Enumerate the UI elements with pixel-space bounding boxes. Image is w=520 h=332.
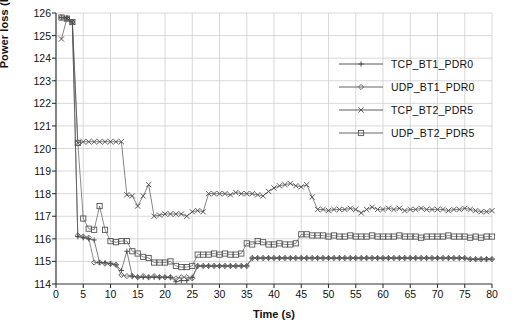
legend-label: UDP_BT2_PDR5: [391, 127, 475, 139]
x-tick-label: 15: [132, 289, 144, 300]
legend-label: UDP_BT1_PDR0: [391, 81, 475, 93]
x-tick-label: 55: [350, 289, 362, 300]
y-tick-label: 117: [23, 211, 51, 221]
legend-item-UDP_BT1_PDR0[interactable]: UDP_BT1_PDR0: [338, 75, 475, 98]
y-tick-label: 118: [23, 189, 51, 199]
legend-swatch-diamond-icon: [338, 81, 384, 93]
legend-swatch-cross-icon: [338, 104, 384, 116]
y-tick-label: 121: [23, 121, 51, 131]
x-tick-label: 45: [295, 289, 307, 300]
legend-swatch-plus-icon: [338, 58, 384, 70]
y-tick-label: 126: [23, 8, 51, 18]
power-loss-chart-figure: Power loss (kw) Time (s) 114115116117118…: [0, 0, 520, 332]
y-tick-label: 119: [23, 166, 51, 176]
legend-swatch-square-icon: [338, 127, 384, 139]
x-axis-title: Time (s): [56, 308, 492, 320]
y-axis-title: Power loss (kw): [0, 0, 10, 96]
y-tick-label: 123: [23, 76, 51, 86]
x-tick-label: 70: [432, 289, 444, 300]
x-tick-label: 65: [404, 289, 416, 300]
x-tick-label: 60: [377, 289, 389, 300]
y-tick-label: 114: [23, 279, 51, 289]
x-tick-label: 50: [323, 289, 335, 300]
x-tick-label: 20: [159, 289, 171, 300]
y-tick-label: 124: [23, 53, 51, 63]
legend-label: TCP_BT2_PDR5: [391, 104, 473, 116]
y-tick-label: 122: [23, 98, 51, 108]
x-tick-label: 5: [80, 289, 86, 300]
y-tick-label: 115: [23, 256, 51, 266]
legend-label: TCP_BT1_PDR0: [391, 58, 473, 70]
x-tick-label: 35: [241, 289, 253, 300]
x-tick-label: 30: [214, 289, 226, 300]
y-tick-label: 116: [23, 234, 51, 244]
x-tick-label: 40: [268, 289, 280, 300]
x-tick-label: 75: [459, 289, 471, 300]
legend-item-TCP_BT2_PDR5[interactable]: TCP_BT2_PDR5: [338, 98, 475, 121]
x-tick-label: 25: [186, 289, 198, 300]
chart-legend: TCP_BT1_PDR0UDP_BT1_PDR0TCP_BT2_PDR5UDP_…: [338, 52, 475, 144]
y-tick-label: 125: [23, 31, 51, 41]
x-tick-label: 80: [486, 289, 498, 300]
y-tick-label: 120: [23, 144, 51, 154]
x-tick-label: 0: [53, 289, 59, 300]
legend-item-UDP_BT2_PDR5[interactable]: UDP_BT2_PDR5: [338, 121, 475, 144]
legend-item-TCP_BT1_PDR0[interactable]: TCP_BT1_PDR0: [338, 52, 475, 75]
x-tick-label: 10: [105, 289, 117, 300]
